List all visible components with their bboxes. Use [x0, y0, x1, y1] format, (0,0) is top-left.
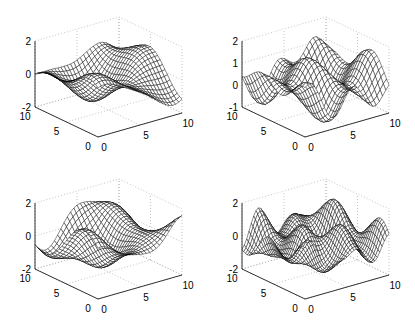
z-tick-label: 0 — [232, 80, 238, 91]
z-tick-label: -2 — [22, 264, 31, 275]
z-tick-label: 0 — [25, 69, 31, 80]
z-tick-label: 2 — [25, 198, 31, 209]
x-axis — [98, 275, 182, 299]
x-tick-label: 10 — [389, 280, 401, 291]
surface-mesh — [242, 199, 389, 272]
y-tick-label: 5 — [54, 288, 60, 299]
z-tick-label: 1 — [232, 58, 238, 69]
z-tick-label: 0 — [25, 231, 31, 242]
x-axis — [98, 113, 182, 137]
y-axis — [35, 269, 98, 299]
figure: 05100510-202 05100510-1012 05100510-202 … — [0, 0, 415, 325]
surface-mesh — [35, 201, 182, 267]
y-tick-label: 0 — [85, 141, 91, 152]
subplot-top-left: 05100510-202 — [19, 17, 194, 153]
x-tick-label: 5 — [143, 130, 149, 141]
x-tick-label: 5 — [350, 130, 356, 141]
grid-line-y — [67, 98, 151, 122]
z-tick-label: -2 — [22, 102, 31, 113]
y-tick-label: 5 — [54, 126, 60, 137]
x-tick-label: 0 — [308, 142, 314, 153]
x-tick-label: 5 — [350, 292, 356, 303]
subplot-top-right: 05100510-1012 — [226, 17, 401, 153]
y-axis — [242, 107, 305, 137]
grid-line-z — [326, 17, 389, 47]
surface-mesh — [242, 37, 389, 123]
x-tick-label: 10 — [182, 280, 194, 291]
z-tick-label: 2 — [232, 198, 238, 209]
z-tick-label: -1 — [229, 102, 238, 113]
y-tick-label: 5 — [261, 126, 267, 137]
y-tick-label: 0 — [85, 303, 91, 314]
x-tick-label: 10 — [182, 118, 194, 129]
y-axis — [242, 269, 305, 299]
subplot-bottom-right: 05100510-202 — [226, 179, 401, 315]
z-tick-label: -2 — [229, 264, 238, 275]
x-tick-label: 0 — [101, 304, 107, 315]
x-axis — [305, 275, 389, 299]
x-tick-label: 5 — [143, 292, 149, 303]
y-tick-label: 5 — [261, 288, 267, 299]
grid-line-z — [119, 17, 182, 47]
z-tick-label: 2 — [232, 36, 238, 47]
grid-line-z — [119, 179, 182, 209]
z-tick-label: 2 — [25, 36, 31, 47]
z-tick-label: 0 — [232, 231, 238, 242]
x-tick-label: 0 — [101, 142, 107, 153]
y-axis — [35, 107, 98, 137]
x-tick-label: 10 — [389, 118, 401, 129]
mesh-cell — [173, 218, 179, 222]
x-tick-label: 0 — [308, 304, 314, 315]
subplot-bottom-left: 05100510-202 — [19, 179, 194, 315]
y-tick-label: 0 — [292, 141, 298, 152]
y-tick-label: 0 — [292, 303, 298, 314]
surface-mesh — [35, 42, 182, 105]
